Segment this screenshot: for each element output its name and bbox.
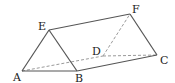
label-b: B [75, 72, 83, 83]
edge-df [103, 14, 130, 56]
label-c: C [160, 54, 168, 67]
label-a: A [12, 71, 22, 83]
label-d: D [92, 45, 101, 58]
edge-dc [103, 55, 157, 56]
edge-fc [130, 14, 157, 55]
edge-ae [22, 30, 49, 71]
label-f: F [132, 3, 140, 16]
edge-ef [49, 14, 130, 30]
edge-bc [77, 55, 157, 71]
label-e: E [38, 20, 46, 33]
prism-diagram: A B C D E F [0, 0, 175, 83]
